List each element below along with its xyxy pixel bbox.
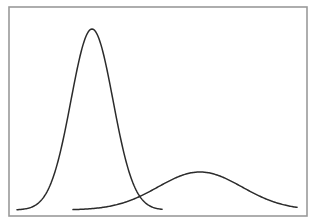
plot-frame <box>9 7 307 216</box>
distribution-chart <box>0 0 314 224</box>
